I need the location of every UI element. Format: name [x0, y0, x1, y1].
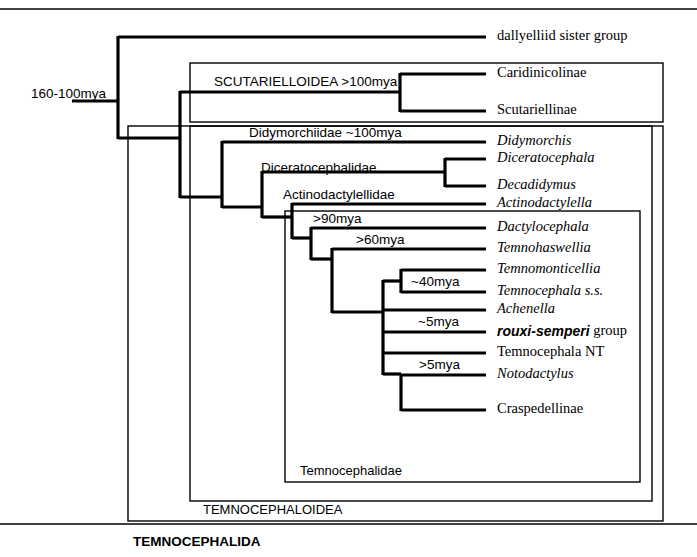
box-labels: Temnocephalidae TEMNOCEPHALOIDEA TEMNOCE…: [133, 463, 402, 548]
rouxi-semperi-suffix: group: [590, 322, 627, 338]
root-age-label: 160-100mya: [31, 86, 107, 101]
leaf-label-dallyelliid: dallyelliid sister group: [497, 27, 627, 43]
leaf-label-dactylocephala: Dactylocephala: [496, 218, 589, 234]
leaf-label-diceratocephala: Diceratocephala: [496, 149, 594, 165]
leaf-label-scutariellinae: Scutariellinae: [497, 101, 577, 117]
leaf-label-decadidymus: Decadidymus: [496, 176, 576, 192]
clade-label-diceratocephalidae: Diceratocephalidae: [261, 160, 377, 175]
phylogenetic-tree-svg: 160-100mya SCUTARIELLOIDEA >100mya Didym…: [0, 0, 697, 557]
leaf-label-temnocephala-ss: Temnocephala s.s.: [497, 282, 603, 298]
leaf-label-caridinicolinae: Caridinicolinae: [497, 64, 586, 80]
leaf-label-temnomonticellia: Temnomonticellia: [497, 260, 600, 276]
clade-labels: SCUTARIELLOIDEA >100mya Didymorchiidae ~…: [214, 74, 460, 372]
box-label-temnocephaloidea: TEMNOCEPHALOIDEA: [203, 502, 343, 517]
clade-label-scutarielloidea: SCUTARIELLOIDEA >100mya: [214, 74, 398, 89]
figure-canvas: 160-100mya SCUTARIELLOIDEA >100mya Didym…: [0, 0, 697, 557]
clade-label-age-40mya: ~40mya: [411, 274, 460, 289]
box-label-temnocephalidae: Temnocephalidae: [300, 463, 402, 478]
leaf-label-rouxi-semperi-group: rouxi-semperi group: [497, 322, 627, 338]
rouxi-semperi-name: rouxi-semperi: [497, 323, 591, 339]
leaf-label-craspedellinae: Craspedellinae: [497, 400, 583, 416]
clade-label-age-60mya: >60mya: [356, 232, 405, 247]
clade-label-didymorchiidae: Didymorchiidae ~100mya: [249, 125, 402, 140]
clade-label-age-90mya: >90mya: [313, 211, 362, 226]
leaf-label-temnocephala-nt: Temnocephala NT: [497, 343, 604, 359]
tree-branches: [72, 36, 486, 411]
clade-label-age-5mya-greater: >5mya: [419, 357, 460, 372]
leaf-label-notodactylus: Notodactylus: [496, 365, 574, 381]
leaf-label-temnohaswellia: Temnohaswellia: [497, 239, 591, 255]
clade-label-actinodactylellidae: Actinodactylellidae: [283, 187, 395, 202]
leaf-label-didymorchis: Didymorchis: [496, 132, 572, 148]
leaf-labels: dallyelliid sister group Caridinicolinae…: [496, 27, 627, 416]
leaf-label-actinodactylella: Actinodactylella: [496, 194, 592, 210]
leaf-label-achenella: Achenella: [496, 300, 555, 316]
clade-label-age-5mya-approx: ~5mya: [418, 314, 459, 329]
box-label-temnocephalida: TEMNOCEPHALIDA: [133, 534, 261, 549]
